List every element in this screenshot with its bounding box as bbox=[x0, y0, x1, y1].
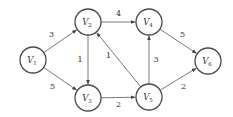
node-v2: V2 bbox=[75, 9, 101, 35]
node-v5: V5 bbox=[136, 84, 162, 110]
edge-weight-v1-v3: 5 bbox=[50, 82, 55, 91]
edge-weight-v1-v2: 3 bbox=[49, 30, 54, 39]
edge-weight-v5-v2: 1 bbox=[106, 51, 111, 60]
edge-v1-v3 bbox=[44, 67, 77, 90]
edge-v5-v6 bbox=[160, 68, 196, 90]
edge-v4-v6 bbox=[160, 29, 197, 53]
edge-v5-v2 bbox=[97, 32, 141, 86]
edge-weight-v2-v4: 4 bbox=[116, 9, 121, 18]
edge-weight-v5-v6: 2 bbox=[181, 82, 186, 91]
node-v1: V1 bbox=[20, 47, 46, 73]
node-v6: V6 bbox=[195, 48, 221, 74]
edge-weight-v3-v5: 2 bbox=[116, 100, 121, 109]
node-v4: V4 bbox=[136, 9, 162, 35]
edge-weight-v2-v3: 1 bbox=[77, 55, 82, 64]
edge-weight-v5-v4: 3 bbox=[153, 55, 158, 64]
edges: 351421352 bbox=[44, 9, 197, 109]
edge-v3-v5 bbox=[101, 97, 136, 98]
edge-weight-v4-v6: 5 bbox=[180, 30, 185, 39]
node-v3: V3 bbox=[75, 85, 101, 111]
nodes: V1V2V3V4V5V6 bbox=[20, 9, 221, 111]
graph-diagram: 351421352 V1V2V3V4V5V6 bbox=[0, 0, 233, 117]
